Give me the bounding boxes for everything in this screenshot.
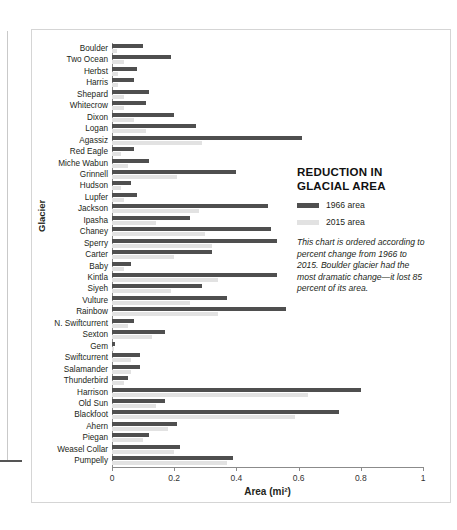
y-axis-tick-label: Whitecrow	[70, 100, 108, 111]
bar-2015-area	[112, 118, 134, 122]
y-axis-tick-label: Vulture	[82, 295, 108, 306]
y-axis-tick-label: Harrison	[77, 387, 108, 398]
bar-2015-area	[112, 83, 118, 87]
chart-legend-panel: REDUCTION IN GLACIAL AREA 1966 area2015 …	[297, 165, 425, 295]
y-axis-tick-label: Siyeh	[88, 283, 108, 294]
y-axis-tick-label: Weasel Collar	[57, 444, 108, 455]
bar-2015-area	[112, 49, 117, 53]
bar-1966-area	[112, 90, 149, 94]
bar-1966-area	[112, 193, 137, 197]
x-axis-tick	[174, 467, 175, 471]
bar-1966-area	[112, 376, 128, 380]
bar-1966-area	[112, 433, 149, 437]
x-axis-title: Area (mi²)	[112, 486, 423, 497]
y-axis-tick-label: Sperry	[84, 238, 108, 249]
x-axis-tick-label: 0.6	[293, 473, 305, 483]
bar-2015-area	[112, 106, 124, 110]
bar-1966-area	[112, 239, 277, 243]
bar-1966-area	[112, 342, 115, 346]
y-axis-title: Glacier	[36, 200, 47, 232]
bar-1966-area	[112, 181, 131, 185]
legend: 1966 area2015 area	[297, 200, 425, 227]
y-axis-tick-label: Blackfoot	[74, 409, 108, 420]
y-axis-tick-label: Baby	[89, 261, 108, 272]
y-axis-tick-label: Agassiz	[79, 135, 108, 146]
y-axis-tick-label: Miche Wabun	[58, 158, 108, 169]
y-axis-tick-label: Pumpelly	[74, 455, 108, 466]
bar-2015-area	[112, 95, 124, 99]
bar-2015-area	[112, 141, 202, 145]
y-axis-tick-label: Kintla	[88, 272, 108, 283]
legend-item: 2015 area	[297, 217, 425, 227]
y-axis-tick-label: Boulder	[80, 43, 108, 54]
x-axis-tick	[236, 467, 237, 471]
y-axis-tick-label: Gem	[90, 341, 108, 352]
legend-label: 2015 area	[326, 217, 365, 227]
bar-1966-area	[112, 296, 227, 300]
y-axis-tick-label: Old Sun	[78, 398, 108, 409]
bar-1966-area	[112, 55, 171, 59]
y-axis-tick-label: Rainbow	[76, 306, 108, 317]
y-axis-tick-label: Sexton	[83, 329, 109, 340]
y-axis-tick-label: Ahern	[86, 421, 108, 432]
bar-2015-area	[112, 267, 124, 271]
bar-1966-area	[112, 365, 140, 369]
chart-title: REDUCTION IN GLACIAL AREA	[297, 165, 425, 193]
bar-1966-area	[112, 113, 174, 117]
bar-1966-area	[112, 399, 165, 403]
y-axis-tick-label: Jackson	[78, 203, 108, 214]
y-axis-tick-label: Thunderbird	[64, 375, 108, 386]
bar-1966-area	[112, 216, 190, 220]
bar-2015-area	[112, 198, 124, 202]
bar-2015-area	[112, 404, 156, 408]
y-axis-tick-label: Red Eagle	[70, 146, 108, 157]
bar-1966-area	[112, 170, 236, 174]
bar-2015-area	[112, 427, 168, 431]
bar-1966-area	[112, 319, 134, 323]
bar-2015-area	[112, 312, 218, 316]
bar-2015-area	[112, 221, 156, 225]
x-axis-tick	[423, 467, 424, 471]
bar-1966-area	[112, 78, 134, 82]
y-axis-tick-label: Carter	[85, 249, 108, 260]
bar-2015-area	[112, 415, 295, 419]
y-axis-tick-label: Lupfer	[85, 192, 108, 203]
chart-caption: This chart is ordered according to perce…	[297, 237, 425, 295]
bar-2015-area	[112, 347, 114, 351]
bar-2015-area	[112, 152, 121, 156]
y-axis-tick-label: Hudson	[80, 180, 108, 191]
bar-1966-area	[112, 262, 131, 266]
y-axis-tick-label: Swiftcurrent	[65, 352, 108, 363]
bar-2015-area	[112, 72, 118, 76]
bar-1966-area	[112, 44, 143, 48]
y-axis-tick-label: Two Ocean	[67, 54, 108, 65]
bar-2015-area	[112, 393, 308, 397]
bar-2015-area	[112, 164, 128, 168]
x-axis-tick-label: 0.2	[168, 473, 180, 483]
bar-2015-area	[112, 129, 146, 133]
y-axis-tick-label: Harris	[86, 77, 108, 88]
bar-1966-area	[112, 159, 149, 163]
y-axis-tick-label: Logan	[85, 123, 108, 134]
y-axis-tick-label: Piegan	[83, 432, 109, 443]
bar-1966-area	[112, 307, 286, 311]
x-axis-tick-label: 0	[110, 473, 115, 483]
glacier-area-chart: BoulderTwo OceanHerbstHarrisShepardWhite…	[0, 0, 457, 530]
bar-2015-area	[112, 450, 174, 454]
bar-1966-area	[112, 204, 268, 208]
bar-2015-area	[112, 358, 131, 362]
bar-1966-area	[112, 227, 271, 231]
bar-1966-area	[112, 353, 140, 357]
y-axis-tick-label: Ipasha	[83, 215, 108, 226]
bar-2015-area	[112, 209, 199, 213]
bar-1966-area	[112, 250, 212, 254]
x-axis-tick	[299, 467, 300, 471]
y-axis-tick-label: Dixon	[87, 112, 108, 123]
bar-2015-area	[112, 381, 124, 385]
x-axis-tick	[361, 467, 362, 471]
y-axis-tick-label: N. Swiftcurrent	[54, 318, 108, 329]
bar-2015-area	[112, 301, 190, 305]
bar-2015-area	[112, 60, 124, 64]
bar-2015-area	[112, 289, 171, 293]
bar-1966-area	[112, 67, 137, 71]
